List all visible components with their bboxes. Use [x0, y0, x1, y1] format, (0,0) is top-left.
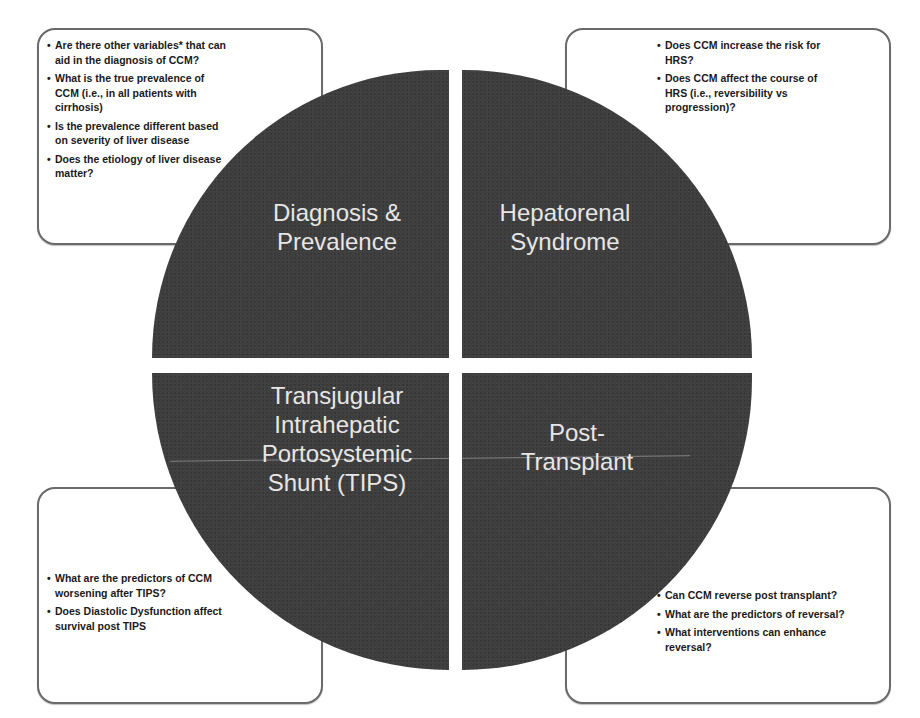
quadrant-label: Transjugular Intrahepatic Portosystemic … — [222, 381, 452, 497]
quadrant-circle: Diagnosis & Prevalence Hepatorenal Syndr… — [152, 70, 752, 670]
question-item: Are there other variables* that can aid … — [47, 38, 227, 67]
quadrant-label: Hepatorenal Syndrome — [480, 198, 650, 256]
quadrant-diagnosis-prevalence: Diagnosis & Prevalence — [152, 70, 449, 358]
quadrant-label: Diagnosis & Prevalence — [247, 198, 427, 256]
quadrant-tips: Transjugular Intrahepatic Portosystemic … — [152, 373, 449, 670]
quadrant-label: Post- Transplant — [502, 418, 652, 476]
quadrant-post-transplant: Post- Transplant — [462, 373, 752, 670]
quadrant-hepatorenal-syndrome: Hepatorenal Syndrome — [462, 70, 752, 358]
question-item: Does CCM increase the risk for HRS? — [657, 38, 842, 67]
